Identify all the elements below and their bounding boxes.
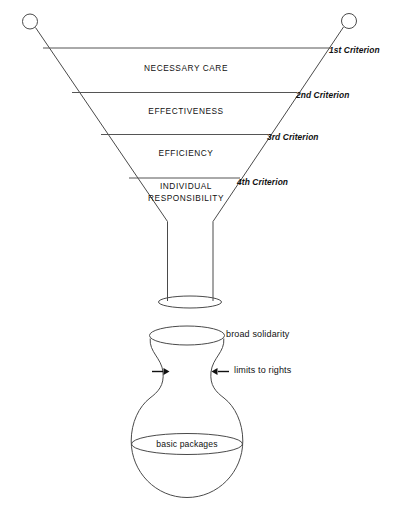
flask-rim-ellipse: [150, 326, 225, 345]
funnel-stem-mouth-ellipse: [159, 296, 222, 308]
tier-label-responsibility: RESPONSIBILITY: [148, 194, 224, 202]
diagram-figure: NECESSARY CARE EFFECTIVENESS EFFICIENCY …: [0, 0, 395, 514]
right-handle-knob-icon: [342, 14, 357, 29]
annotation-broad-solidarity: broad solidarity: [226, 330, 289, 339]
diagram-canvas: [0, 0, 395, 514]
left-handle-knob-icon: [23, 14, 38, 29]
criterion-label-3: 3rd Criterion: [267, 133, 319, 141]
tier-label-necessary-care: NECESSARY CARE: [144, 64, 228, 72]
criterion-label-2: 2nd Criterion: [296, 91, 349, 99]
criterion-label-4: 4th Criterion: [237, 178, 288, 186]
tier-label-effectiveness: EFFECTIVENESS: [148, 107, 223, 115]
flask-body-outline: [131, 339, 243, 498]
tier-label-efficiency: EFFICIENCY: [159, 149, 214, 157]
criterion-label-1: 1st Criterion: [329, 46, 380, 54]
funnel-right-edge: [213, 27, 344, 222]
right-pressure-arrow-icon: [212, 368, 230, 375]
left-pressure-arrow-icon: [152, 368, 170, 375]
tier-label-individual: INDIVIDUAL: [160, 182, 212, 190]
annotation-limits-to-rights: limits to rights: [234, 366, 291, 375]
annotation-basic-packages: basic packages: [156, 440, 217, 449]
